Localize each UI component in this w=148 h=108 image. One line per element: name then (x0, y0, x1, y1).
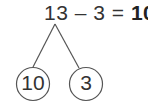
right-branch-line (55, 24, 79, 68)
left-part: 10 (17, 71, 49, 95)
left-branch-line (33, 24, 55, 67)
right-part: 3 (70, 71, 102, 95)
